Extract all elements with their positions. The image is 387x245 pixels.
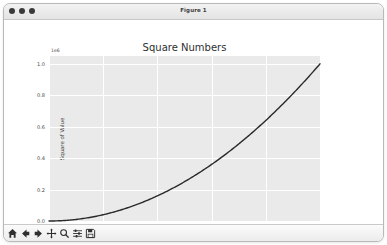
- pan-button[interactable]: [45, 227, 58, 240]
- save-button[interactable]: [84, 227, 97, 240]
- y-tick-label: 0.8: [23, 92, 45, 98]
- series-squares: [49, 56, 320, 221]
- forward-button[interactable]: [32, 227, 45, 240]
- grid-line-horizontal: [49, 221, 320, 222]
- back-button[interactable]: [19, 227, 32, 240]
- line-series-path: [49, 64, 320, 221]
- screen: Figure 1 Square Numbers 1e6 Value Square…: [0, 0, 387, 245]
- figure-window: Figure 1 Square Numbers 1e6 Value Square…: [3, 3, 384, 242]
- window-title: Figure 1: [4, 7, 383, 13]
- y-axis-offset-text: 1e6: [51, 48, 60, 53]
- plot-area[interactable]: Square of Value 020040060080010000.00.20…: [49, 56, 320, 221]
- chart-title: Square Numbers: [49, 42, 320, 53]
- matplotlib-toolbar: [4, 224, 383, 241]
- home-button[interactable]: [6, 227, 19, 240]
- y-tick-label: 0.6: [23, 124, 45, 130]
- y-tick-label: 0.4: [23, 155, 45, 161]
- figure-canvas[interactable]: Square Numbers 1e6 Value Square of Value…: [4, 20, 383, 226]
- y-tick-label: 0.2: [23, 187, 45, 193]
- zoom-button[interactable]: [58, 227, 71, 240]
- y-tick-label: 1.0: [23, 61, 45, 67]
- window-titlebar[interactable]: Figure 1: [4, 4, 383, 20]
- configure-subplots-button[interactable]: [71, 227, 84, 240]
- grid-line-vertical: [320, 56, 321, 221]
